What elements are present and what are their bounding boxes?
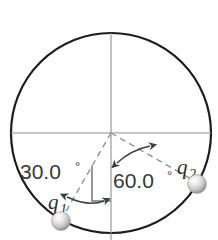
angle-arc-arrow-60	[117, 146, 150, 163]
angle-label-30: 30.0 °	[20, 159, 80, 183]
angle-label-60-value: 60.0	[113, 169, 154, 192]
angle-label-60: 60.0 °	[113, 168, 172, 192]
right-angle-marker-icon	[92, 166, 111, 201]
charge-label-q2-symbol: q	[177, 155, 188, 179]
charge-label-q1-symbol: q	[48, 190, 59, 214]
charge-sphere-q1	[52, 212, 71, 231]
angle-label-30-value: 30.0	[20, 160, 61, 183]
figure-canvas: 30.0 ° 60.0 ° q 1 q 2	[0, 0, 218, 240]
angle-label-60-degree-sign: °	[167, 168, 172, 183]
dashed-radius-to-q1	[61, 133, 111, 220]
angle-label-30-degree-sign: °	[75, 159, 80, 174]
circle-charge-diagram: 30.0 ° 60.0 ° q 1 q 2	[0, 0, 218, 240]
charge-sphere-q2	[188, 175, 207, 194]
